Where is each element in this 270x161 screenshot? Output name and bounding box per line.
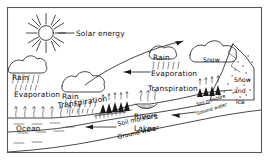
- label-ice-word: ice: [236, 98, 245, 105]
- label-transpiration-right: Transpiration: [147, 84, 198, 93]
- diagram-canvas: Solar energy Rain Rain Rain Evaporation …: [0, 0, 270, 161]
- label-ocean: Ocean: [16, 124, 41, 133]
- label-snow-cloud: Snow: [203, 56, 220, 63]
- label-snow-word: Snow: [234, 76, 251, 83]
- label-evaporation-right: Evaporation: [151, 69, 197, 78]
- label-rivers: Rivers: [134, 112, 158, 121]
- label-evaporation-ocean: Evaporation: [14, 90, 60, 99]
- label-rain-left: Rain: [12, 73, 29, 82]
- label-lakes: Lakes: [134, 124, 156, 133]
- label-and-word: and: [234, 87, 246, 94]
- label-rain-right: Rain: [153, 53, 170, 62]
- hydrologic-cycle-diagram: Solar energy Rain Rain Rain Evaporation …: [0, 0, 270, 161]
- label-solar-energy: Solar energy: [76, 29, 125, 38]
